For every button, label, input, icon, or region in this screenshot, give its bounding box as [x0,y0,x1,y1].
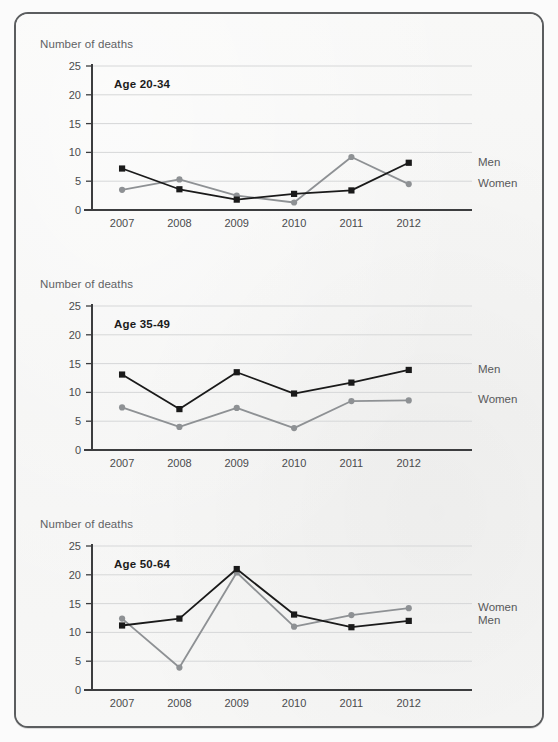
y-tick-label: 15 [69,598,81,610]
y-tick-label: 20 [69,329,81,341]
x-tick-label: 2008 [167,697,191,709]
x-tick-label: 2008 [167,217,191,229]
data-point-men [176,615,182,621]
x-tick-label: 2011 [340,217,364,229]
legend-label-women: Women [478,177,517,189]
y-tick-label: 5 [75,655,81,667]
data-point-women [406,181,412,187]
x-tick-label: 2009 [225,457,249,469]
data-point-women [176,424,182,430]
chart-card: Number of deaths 05101520252007200820092… [14,12,544,728]
x-tick-label: 2009 [225,217,249,229]
x-tick-label: 2007 [110,457,134,469]
y-axis-title: Number of deaths [40,278,133,290]
data-point-women [291,199,297,205]
legend-label-men: Men [478,614,500,626]
y-tick-label: 0 [75,444,81,456]
y-tick-label: 20 [69,89,81,101]
x-tick-label: 2008 [167,457,191,469]
chart-title-label: Age 20-34 [114,78,170,90]
y-tick-label: 15 [69,118,81,130]
x-tick-label: 2010 [282,697,306,709]
data-point-women [119,404,125,410]
legend-label-women: Women [478,601,517,613]
x-tick-label: 2007 [110,217,134,229]
x-tick-label: 2012 [397,697,421,709]
data-point-women [291,425,297,431]
plot-area-0: 0510152025200720082009201020112012Age 20… [16,56,546,246]
data-point-men [291,611,297,617]
data-point-women [176,176,182,182]
x-tick-label: 2012 [397,217,421,229]
chart-title-label: Age 50-64 [114,558,170,570]
y-axis-title: Number of deaths [40,38,133,50]
series-line-men [122,370,409,409]
y-tick-label: 5 [75,175,81,187]
y-tick-label: 25 [69,60,81,72]
data-point-men [176,406,182,412]
data-point-women [291,624,297,630]
data-point-men [348,187,354,193]
data-point-men [406,618,412,624]
y-tick-label: 25 [69,300,81,312]
data-point-women [119,187,125,193]
series-line-women [122,157,409,203]
x-tick-label: 2010 [282,457,306,469]
x-tick-label: 2011 [340,697,364,709]
data-point-men [348,624,354,630]
data-point-men [406,160,412,166]
data-point-men [291,390,297,396]
plot-area-1: 0510152025200720082009201020112012Age 35… [16,296,546,486]
data-point-men [234,566,240,572]
y-tick-label: 15 [69,358,81,370]
legend-label-women: Women [478,393,517,405]
data-point-women [348,398,354,404]
data-point-men [119,165,125,171]
y-axis-title: Number of deaths [40,518,133,530]
data-point-men [119,371,125,377]
chart-title-label: Age 35-49 [114,318,170,330]
y-tick-label: 25 [69,540,81,552]
data-point-men [406,367,412,373]
data-point-men [348,380,354,386]
data-point-men [291,191,297,197]
series-line-men [122,569,409,627]
data-point-men [176,186,182,192]
data-point-men [234,369,240,375]
data-point-men [119,622,125,628]
data-point-women [406,397,412,403]
data-point-women [234,405,240,411]
y-tick-label: 20 [69,569,81,581]
x-tick-label: 2010 [282,217,306,229]
data-point-women [176,664,182,670]
y-tick-label: 0 [75,684,81,696]
data-point-women [119,615,125,621]
data-point-women [348,154,354,160]
x-tick-label: 2009 [225,697,249,709]
y-tick-label: 10 [69,146,81,158]
x-tick-label: 2007 [110,697,134,709]
plot-area-2: 0510152025200720082009201020112012Age 50… [16,536,546,726]
data-point-men [234,197,240,203]
data-point-women [406,605,412,611]
chart-page: Number of deaths 05101520252007200820092… [0,0,558,742]
data-point-women [348,612,354,618]
y-tick-label: 10 [69,626,81,638]
legend-label-men: Men [478,156,500,168]
y-tick-label: 0 [75,204,81,216]
x-tick-label: 2012 [397,457,421,469]
series-line-women [122,400,409,428]
legend-label-men: Men [478,363,500,375]
y-tick-label: 5 [75,415,81,427]
y-tick-label: 10 [69,386,81,398]
x-tick-label: 2011 [340,457,364,469]
